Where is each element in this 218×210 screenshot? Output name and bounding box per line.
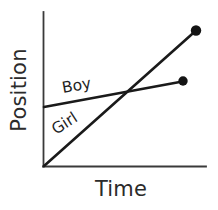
chart-canvas: Boy Girl Position Time bbox=[0, 0, 218, 210]
y-axis-title: Position bbox=[7, 48, 31, 131]
boy-endpoint-marker bbox=[178, 76, 187, 85]
position-time-graph-figure: Boy Girl Position Time bbox=[0, 0, 218, 210]
girl-endpoint-marker bbox=[191, 25, 201, 35]
x-axis-title: Time bbox=[94, 177, 147, 201]
series-label-boy: Boy bbox=[61, 74, 93, 97]
series-label-girl: Girl bbox=[48, 109, 80, 139]
girl-line bbox=[44, 31, 196, 166]
